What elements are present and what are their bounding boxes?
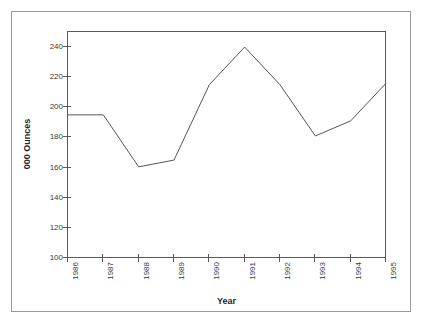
x-axis-tick-mark	[279, 254, 280, 262]
y-axis-tick-label: 120	[50, 222, 63, 231]
y-axis-tick-mark	[63, 197, 71, 198]
y-axis-tick-mark	[63, 46, 71, 47]
x-axis-tick-mark	[208, 254, 209, 262]
y-axis-tick-label: 140	[50, 192, 63, 201]
y-axis-tick-label: 240	[50, 42, 63, 51]
x-axis-tick-label: 1991	[248, 262, 257, 280]
x-axis-tick-mark	[67, 254, 68, 262]
x-axis-tick-label: 1994	[354, 262, 363, 280]
x-axis-tick-mark	[350, 254, 351, 262]
y-axis-tick-label: 100	[50, 253, 63, 262]
y-axis-title: 000 Ounces	[22, 119, 32, 170]
x-axis-tick-label: 1992	[283, 262, 292, 280]
x-axis-tick-mark	[244, 254, 245, 262]
x-axis-tick-label: 1995	[389, 262, 398, 280]
y-axis-tick-label: 180	[50, 132, 63, 141]
x-axis-tick-mark	[385, 254, 386, 262]
y-axis-tick-labels: 100120140160180200220240	[38, 31, 63, 258]
y-axis-tick-mark	[63, 136, 71, 137]
x-axis-title: Year	[67, 296, 386, 306]
y-axis-tick-label: 220	[50, 72, 63, 81]
x-axis-tick-label: 1993	[318, 262, 327, 280]
x-axis-tick-label: 1990	[212, 262, 221, 280]
y-axis-tick-mark	[63, 227, 71, 228]
x-axis-tick-mark	[138, 254, 139, 262]
y-axis-tick-mark	[63, 167, 71, 168]
data-line	[68, 47, 386, 167]
x-axis-tick-mark	[102, 254, 103, 262]
x-axis-tick-label: 1989	[177, 262, 186, 280]
plot-area	[67, 31, 386, 258]
y-axis-tick-label: 160	[50, 162, 63, 171]
x-axis-tick-label: 1988	[142, 262, 151, 280]
x-axis-tick-mark	[173, 254, 174, 262]
y-axis-tick-label: 200	[50, 102, 63, 111]
y-axis-tick-mark	[63, 106, 71, 107]
x-axis-tick-label: 1987	[106, 262, 115, 280]
chart-figure: 100120140160180200220240 198619871988198…	[0, 0, 424, 324]
line-series-svg	[68, 32, 387, 259]
y-axis-tick-mark	[63, 76, 71, 77]
x-axis-tick-mark	[314, 254, 315, 262]
x-axis-tick-label: 1986	[71, 262, 80, 280]
